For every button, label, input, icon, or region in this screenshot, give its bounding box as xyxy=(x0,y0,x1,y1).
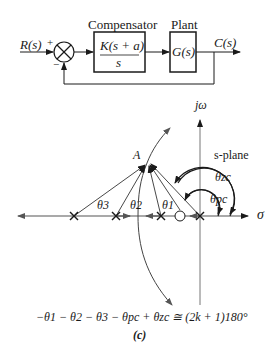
output-label: C(s) xyxy=(214,35,236,51)
figure-caption: (c) xyxy=(133,328,146,343)
theta-zc-label: θzc xyxy=(215,170,231,185)
angle-condition-equation: −θ1 − θ2 − θ3 − θpc + θzc ≅ (2k + 1)180° xyxy=(36,310,248,325)
compensator-denominator: s xyxy=(116,55,121,71)
vector-pole-pc xyxy=(151,164,200,216)
vector-pole1 xyxy=(149,166,161,216)
real-axis-label: σ xyxy=(257,207,264,223)
plant-transfer-function: G(s) xyxy=(172,44,195,60)
minus-sign: − xyxy=(53,58,59,70)
root-locus-branch-lower xyxy=(138,216,172,305)
compensator-title: Compensator xyxy=(88,17,157,33)
theta3-label: θ3 xyxy=(97,198,109,213)
plus-sign: + xyxy=(47,36,53,48)
theta2-label: θ2 xyxy=(130,198,142,213)
input-label: R(s) xyxy=(20,37,42,53)
point-a-label: A xyxy=(133,148,140,163)
zero-marker-icon xyxy=(175,211,185,221)
plant-title: Plant xyxy=(171,17,198,33)
theta-pc-label: θpc xyxy=(210,192,227,207)
s-plane-label: s-plane xyxy=(214,148,249,163)
imaginary-axis-label: jω xyxy=(195,98,207,113)
compensator-numerator: K(s + a) xyxy=(100,38,144,54)
theta1-label: θ1 xyxy=(162,198,174,213)
